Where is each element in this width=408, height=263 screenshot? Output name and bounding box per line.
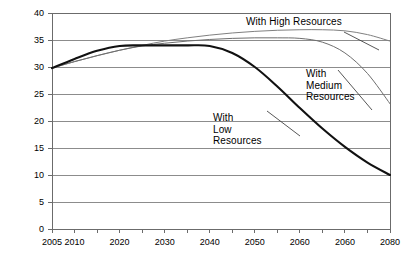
y-tick-label: 0 (22, 224, 44, 234)
x-tick-label: 2030 (148, 237, 182, 247)
annotation-leader-line (267, 111, 300, 136)
y-tick-label: 20 (22, 116, 44, 126)
x-tick-label: 2060 (283, 237, 317, 247)
y-tick-label: 30 (22, 62, 44, 72)
series-annotation-low: With Low Resources (213, 112, 262, 147)
y-tick-label: 25 (22, 89, 44, 99)
y-tick-label: 10 (22, 170, 44, 180)
y-tick-label: 15 (22, 143, 44, 153)
x-tick-marks (52, 229, 390, 233)
gridlines (52, 13, 390, 202)
x-tick-label: 2020 (103, 237, 137, 247)
series-line (52, 45, 390, 175)
y-tick-label: 35 (22, 35, 44, 45)
y-tick-marks (48, 13, 52, 229)
series-annotation-high: With High Resources (246, 16, 342, 28)
x-tick-label: 2060 (328, 237, 362, 247)
production-forecast-chart: Production (billions of bbls) 0510152025… (0, 0, 408, 263)
x-tick-label: 2050 (238, 237, 272, 247)
x-tick-label: 2040 (193, 237, 227, 247)
plot-canvas (0, 0, 408, 263)
y-tick-label: 40 (22, 8, 44, 18)
x-tick-label: 2080 (373, 237, 407, 247)
y-tick-label: 5 (22, 197, 44, 207)
series-annotation-medium: With Medium Resources (306, 68, 355, 103)
x-tick-label: 2010 (58, 237, 92, 247)
annotation-leader-line (344, 32, 379, 50)
